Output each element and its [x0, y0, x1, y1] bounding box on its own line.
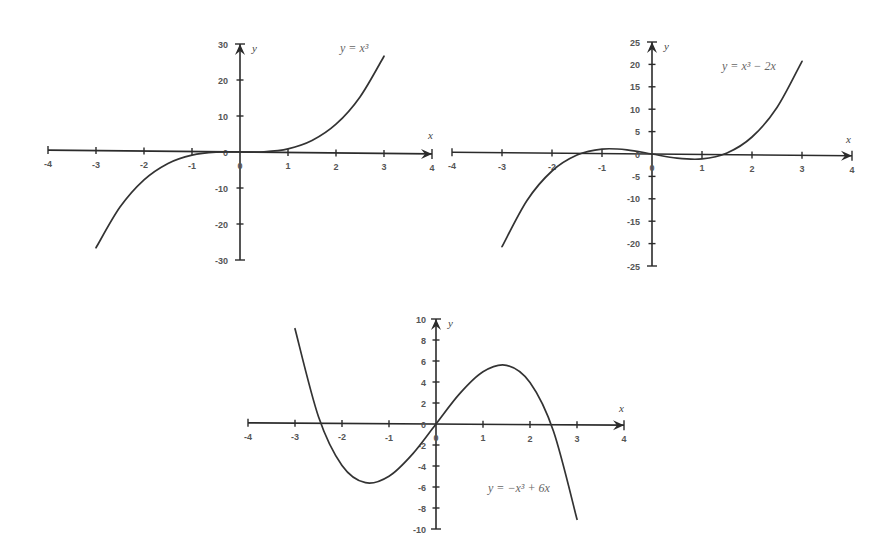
y-tick-label: -4 — [418, 462, 426, 472]
y-tick-label: 2 — [421, 399, 426, 409]
y-tick-label: -6 — [418, 483, 426, 493]
x-tick-label: 3 — [799, 164, 804, 174]
chart-cubic: -4-3-2-1012343020100-10-20-30yxy = x³ — [44, 40, 435, 266]
x-tick-label: -4 — [44, 159, 52, 169]
y-tick-label: -10 — [215, 184, 228, 194]
x-axis-label: x — [845, 133, 851, 145]
y-tick-label: 10 — [416, 315, 426, 325]
formula-label: y = −x³ + 6x — [487, 481, 551, 495]
y-tick-label: 10 — [630, 105, 640, 115]
y-tick-label: -30 — [215, 256, 228, 266]
x-tick-label: -1 — [188, 161, 196, 171]
x-axis-label: x — [427, 129, 433, 141]
y-tick-label: 20 — [630, 60, 640, 70]
y-axis-label: y — [251, 42, 257, 54]
y-tick-label: 8 — [421, 336, 426, 346]
y-tick-label: -8 — [418, 504, 426, 514]
y-tick-label: 5 — [635, 127, 640, 137]
x-tick-label: -3 — [498, 162, 506, 172]
y-tick-label: -5 — [632, 172, 640, 182]
y-tick-label: 10 — [218, 112, 228, 122]
y-tick-label: -10 — [627, 194, 640, 204]
y-tick-label: 30 — [218, 40, 228, 50]
x-tick-label: 3 — [574, 434, 579, 444]
y-tick-label: 0 — [421, 420, 426, 430]
formula-label: y = x³ − 2x — [721, 59, 776, 73]
x-tick-label: -1 — [598, 163, 606, 173]
chart-cubic-minus-2x: -4-3-2-1012342520151050-5-10-15-20-25yxy… — [448, 38, 855, 272]
y-tick-label: -10 — [413, 525, 426, 535]
formula-label: y = x³ — [339, 41, 369, 55]
y-tick-label: -25 — [627, 262, 640, 272]
x-tick-label: 2 — [333, 162, 338, 172]
x-tick-label: 1 — [285, 161, 290, 171]
y-tick-label: 6 — [421, 357, 426, 367]
x-tick-label: 4 — [621, 434, 626, 444]
x-tick-label: 0 — [237, 161, 242, 171]
y-tick-label: 20 — [218, 76, 228, 86]
y-tick-label: 25 — [630, 38, 640, 48]
x-tick-label: 4 — [429, 163, 434, 173]
y-tick-label: -15 — [627, 217, 640, 227]
x-tick-label: -2 — [338, 432, 346, 442]
x-tick-label: -2 — [140, 160, 148, 170]
x-tick-label: -1 — [385, 433, 393, 443]
y-tick-label: 4 — [421, 378, 426, 388]
y-tick-label: 15 — [630, 82, 640, 92]
y-tick-label: -20 — [215, 220, 228, 230]
x-axis-label: x — [618, 402, 624, 414]
y-axis-label: y — [663, 40, 669, 52]
y-axis-label: y — [447, 317, 453, 329]
x-tick-label: -4 — [448, 161, 456, 171]
x-tick-label: -3 — [291, 432, 299, 442]
x-tick-label: 0 — [649, 163, 654, 173]
y-tick-label: -20 — [627, 239, 640, 249]
x-tick-label: 2 — [527, 434, 532, 444]
cubic-function-graphs: -4-3-2-1012343020100-10-20-30yxy = x³-4-… — [0, 0, 896, 557]
x-tick-label: 0 — [433, 433, 438, 443]
x-tick-label: 1 — [699, 163, 704, 173]
x-tick-label: 3 — [381, 162, 386, 172]
x-tick-label: 1 — [480, 433, 485, 443]
x-tick-label: 4 — [849, 165, 854, 175]
chart-neg-cubic-plus-6x: -4-3-2-1012341086420-2-4-6-8-10yxy = −x³… — [244, 315, 627, 535]
x-tick-label: -4 — [244, 432, 252, 442]
x-tick-label: -3 — [92, 160, 100, 170]
x-tick-label: 2 — [749, 164, 754, 174]
